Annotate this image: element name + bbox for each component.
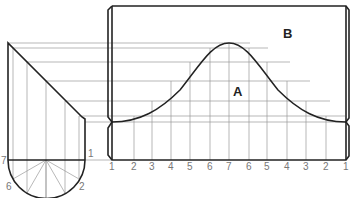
svg-text:4: 4	[284, 161, 290, 172]
svg-text:4: 4	[168, 161, 174, 172]
pattern-labels: 1 2 3 4 5 6 7 6 5 4 3 2 1	[109, 161, 349, 172]
svg-text:1: 1	[343, 161, 349, 172]
svg-text:2: 2	[323, 161, 329, 172]
svg-text:5: 5	[187, 161, 193, 172]
cylinder-label-1: 1	[88, 148, 94, 159]
radial-lines	[13, 160, 79, 198]
cylinder-label-7: 7	[1, 155, 7, 166]
svg-text:6: 6	[207, 161, 213, 172]
svg-text:7: 7	[226, 161, 232, 172]
pattern-verticals	[134, 43, 326, 160]
svg-text:3: 3	[149, 161, 155, 172]
cylinder-outline	[8, 43, 85, 198]
region-label-a: A	[233, 84, 243, 99]
svg-text:6: 6	[246, 161, 252, 172]
region-label-b: B	[283, 26, 292, 41]
svg-text:3: 3	[303, 161, 309, 172]
svg-text:5: 5	[264, 161, 270, 172]
cylinder-label-6: 6	[6, 181, 12, 192]
svg-text:1: 1	[109, 161, 115, 172]
svg-text:2: 2	[131, 161, 137, 172]
cylinder-label-2: 2	[79, 181, 85, 192]
pattern-outline	[108, 6, 349, 160]
projection-lines	[8, 43, 346, 160]
cylinder-development-diagram: A B 1 7 6 2 1 2 3 4 5 6 7 6 5 4 3 2 1	[0, 0, 350, 198]
